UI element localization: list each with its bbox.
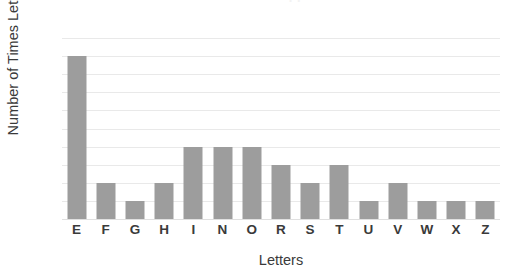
bar-slot [150,38,179,219]
x-axis-tick-label: V [383,222,412,237]
bar-slot [325,38,354,219]
bar-slot [120,38,149,219]
bar [271,165,290,219]
bar [330,165,349,219]
bar [301,183,320,219]
x-axis-tick-label: Z [471,222,500,237]
bar-slot [208,38,237,219]
bar-slot [296,38,325,219]
x-axis-tick-label: I [179,222,208,237]
bar-slot [91,38,120,219]
bar [417,201,436,219]
bar [447,201,466,219]
bar-slot [62,38,91,219]
y-axis-title: Number of Times Letter Appears [5,0,23,141]
bar [242,147,261,219]
gridline [62,219,500,220]
plot-area: 109876543210 EFGHINORSTUVWXZ [62,38,500,219]
bar [67,56,86,219]
bar-series [62,38,500,219]
x-axis-tick-label: F [91,222,120,237]
x-axis-tick-label: W [412,222,441,237]
bar [155,183,174,219]
x-axis-tick-label: X [442,222,471,237]
bar [476,201,495,219]
x-axis-tick-label: T [325,222,354,237]
bar-slot [383,38,412,219]
bar-slot [237,38,266,219]
bar [213,147,232,219]
bar [96,183,115,219]
x-axis-tick-label: G [120,222,149,237]
x-axis-tick-label: N [208,222,237,237]
bar [125,201,144,219]
bar-slot [442,38,471,219]
bar [388,183,407,219]
x-axis-tick-label: S [296,222,325,237]
x-axis-title: Letters [62,252,500,268]
bar-chart: Number of Times Letter Appears in Name N… [0,0,512,278]
bar [359,201,378,219]
bar-slot [471,38,500,219]
x-axis-tick-label: R [266,222,295,237]
chart-title: Number of Times Letter Appears in Name [0,0,512,2]
bar [184,147,203,219]
bar-slot [179,38,208,219]
x-axis-tick-label: U [354,222,383,237]
x-axis-tick-label: E [62,222,91,237]
bar-slot [266,38,295,219]
bar-slot [412,38,441,219]
bar-slot [354,38,383,219]
x-axis-tick-label: H [150,222,179,237]
x-axis-tick-label: O [237,222,266,237]
